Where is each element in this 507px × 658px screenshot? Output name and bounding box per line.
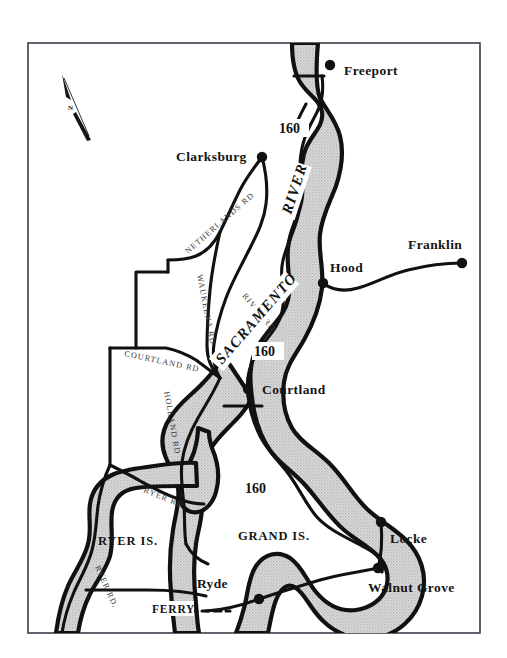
island-label-ryer-is: RYER IS. (98, 534, 158, 548)
city-dot (457, 258, 467, 268)
delta-map-canvas: NETHERLANDS RD WAUKEENA RD RIVER RD COUR… (0, 0, 507, 658)
map-figure: NETHERLANDS RD WAUKEENA RD RIVER RD COUR… (0, 0, 507, 658)
city-label: Walnut Grove (368, 580, 455, 595)
city-dot (243, 384, 253, 394)
highway-shield-160-north: 160 (277, 119, 309, 137)
island-label-grand-is: GRAND IS. (238, 529, 310, 543)
highway-shield-label: 160 (254, 344, 275, 359)
city-label: Hood (330, 260, 363, 275)
north-arrow-label: N (68, 104, 73, 112)
city-dot (376, 517, 386, 527)
ferry-label: FERRY (152, 603, 195, 615)
city-label: Freeport (344, 63, 398, 78)
city-label: Franklin (408, 237, 462, 252)
highway-shield-160-south: 160 (243, 479, 275, 497)
city-dot (325, 60, 335, 70)
highway-shield-label: 160 (245, 481, 266, 496)
city-label: Courtland (262, 382, 326, 397)
city-dot (257, 152, 267, 162)
city-dot (318, 278, 328, 288)
city-dot (254, 594, 264, 604)
city-label: Clarksburg (176, 149, 247, 164)
city-label: Locke (390, 531, 427, 546)
ferry-label-group: FERRY (150, 601, 195, 616)
city-dot (373, 563, 383, 573)
highway-shield-160-mid: 160 (252, 342, 284, 360)
city-label: Ryde (197, 576, 228, 591)
highway-shield-label: 160 (279, 121, 300, 136)
